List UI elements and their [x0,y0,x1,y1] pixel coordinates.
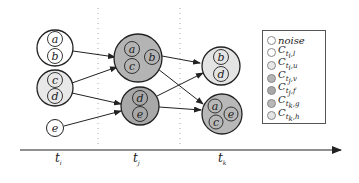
edge-cd-to-de [72,93,121,104]
member-a: a [129,43,136,56]
member-e: e [228,108,235,121]
member-e: e [52,122,59,135]
legend-item-c-tj-v: Ctj,v [267,72,325,85]
member-a: a [52,33,59,46]
edge-de-to-bd [157,73,203,96]
cluster-ti-e-noise: e [47,120,64,137]
member-c: c [52,74,58,87]
legend-swatch-icon [267,86,276,95]
cluster-tj-abc: a b c [114,34,162,82]
edge-de-to-ace [159,107,201,110]
cluster-ti-ab: a b [37,30,73,66]
member-e: e [137,108,144,121]
cluster-ti-cd: c d [37,70,73,106]
legend-swatch-icon [267,36,276,45]
edge-e-to-de [64,111,121,126]
member-c: c [213,116,219,129]
cluster-tk-bd: b d [202,47,240,85]
legend-swatch-icon [267,61,276,70]
cluster-tk-ace: a e c [202,94,242,134]
legend-item-noise: noise [267,34,325,47]
member-b: b [217,51,224,64]
legend-swatch-icon [267,111,276,120]
edge-abc-to-bd [162,56,200,63]
member-d: d [51,90,58,103]
cluster-tj-de: d e [121,87,159,125]
member-d: d [136,92,143,105]
edge-cd-to-abc [72,67,117,83]
legend-label: Ctk,h [278,107,299,125]
legend: noise Cti,l Cti,u Ctj,v Ctj,f Ctk,g Ctk,… [262,30,326,124]
axis-label-tk: tk [218,151,226,166]
member-b: b [51,50,58,63]
member-c: c [129,60,135,73]
legend-swatch-icon [267,99,276,108]
legend-swatch-icon [267,74,276,83]
legend-item-c-tk-h: Ctk,h [267,110,325,123]
member-b: b [148,51,155,64]
axis-label-ti: ti [55,151,62,166]
legend-swatch-icon [267,48,276,57]
edge-ab-to-abc [73,51,115,57]
member-d: d [217,68,224,81]
axis-label-tj: tj [133,151,140,166]
member-a: a [212,100,219,113]
